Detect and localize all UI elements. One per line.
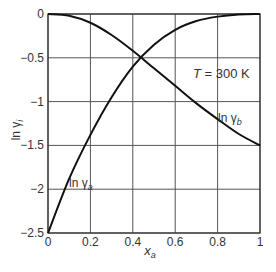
y-tick-label: −1.5 <box>20 138 44 152</box>
y-tick-label: 0 <box>37 7 44 21</box>
temperature-annotation: T = 300 K <box>193 66 250 81</box>
label-ln-gamma-a: ln γa <box>69 176 93 192</box>
x-tick-label: 0.4 <box>124 235 141 249</box>
y-tick-label: −0.5 <box>20 51 44 65</box>
x-tick-label: 0.6 <box>167 235 184 249</box>
label-ln-gamma-b: ln γb <box>218 111 242 127</box>
y-tick-label: −1 <box>30 95 44 109</box>
x-tick-label: 1 <box>257 235 264 249</box>
x-tick-label: 0.8 <box>209 235 226 249</box>
x-tick-labels: 00.20.40.60.81 <box>45 235 264 249</box>
y-tick-labels: 0−0.5−1−1.5−2−2.5 <box>20 7 44 240</box>
y-tick-label: −2.5 <box>20 226 44 240</box>
chart: 00.20.40.60.81 0−0.5−1−1.5−2−2.5 ln γa l… <box>0 0 276 272</box>
y-tick-label: −2 <box>30 182 44 196</box>
y-axis-label: ln γi <box>9 119 25 141</box>
x-tick-label: 0.2 <box>82 235 99 249</box>
x-axis-label: xa <box>143 243 156 260</box>
x-tick-label: 0 <box>45 235 52 249</box>
